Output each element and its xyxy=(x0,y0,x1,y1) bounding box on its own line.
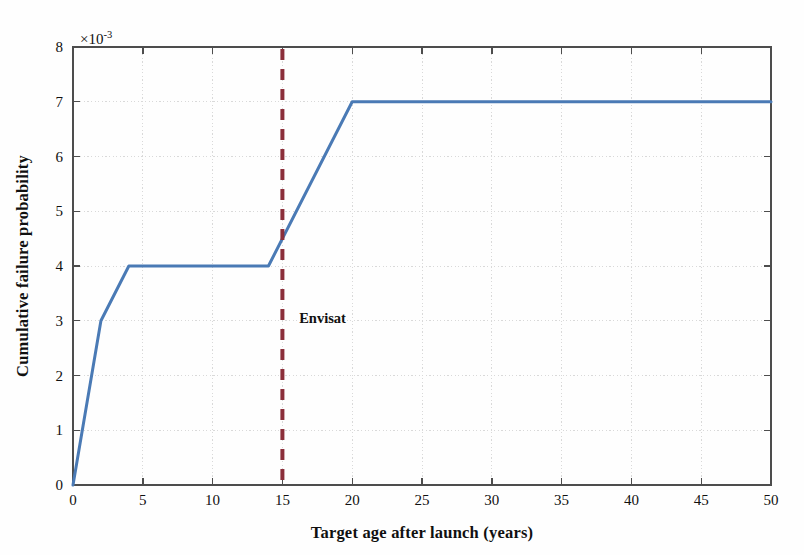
y-tick-label: 5 xyxy=(56,203,64,219)
envisat-annotation-label: Envisat xyxy=(299,310,346,326)
y-tick-label: 3 xyxy=(56,313,64,329)
x-tick-label: 5 xyxy=(139,492,147,508)
x-tick-label: 50 xyxy=(764,492,779,508)
y-tick-label: 2 xyxy=(56,368,64,384)
y-axis-title: Cumulative failure probability xyxy=(13,155,32,377)
y-tick-label: 6 xyxy=(56,149,64,165)
x-tick-label: 45 xyxy=(694,492,709,508)
exponent-power: -3 xyxy=(103,29,112,40)
y-tick-label: 8 xyxy=(56,39,64,55)
x-tick-label: 15 xyxy=(275,492,290,508)
chart-figure: Envisat 05101520253035404550 012345678 ×… xyxy=(0,0,804,555)
x-axis-title: Target age after launch (years) xyxy=(311,523,534,542)
exponent-base: ×10 xyxy=(80,31,103,47)
y-axis-tick-labels: 012345678 xyxy=(56,39,64,493)
x-tick-label: 40 xyxy=(624,492,639,508)
cumulative-failure-probability-chart: Envisat 05101520253035404550 012345678 ×… xyxy=(0,0,804,555)
x-tick-label: 20 xyxy=(345,492,360,508)
y-tick-label: 7 xyxy=(56,94,64,110)
x-tick-label: 25 xyxy=(415,492,430,508)
x-tick-label: 30 xyxy=(484,492,499,508)
y-tick-label: 4 xyxy=(56,258,64,274)
x-tick-label: 0 xyxy=(69,492,77,508)
figure-background xyxy=(0,0,804,555)
y-tick-label: 1 xyxy=(56,422,64,438)
x-tick-label: 35 xyxy=(554,492,569,508)
x-tick-label: 10 xyxy=(205,492,220,508)
y-tick-label: 0 xyxy=(56,477,64,493)
